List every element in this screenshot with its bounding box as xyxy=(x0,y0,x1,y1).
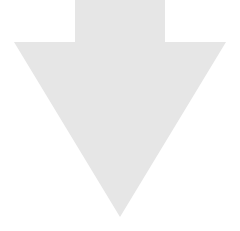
arrow-shape xyxy=(14,0,226,217)
arrow-down-icon xyxy=(0,0,240,231)
